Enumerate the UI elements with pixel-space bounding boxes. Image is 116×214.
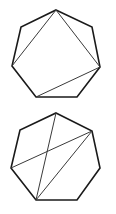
heptagon-bottom	[11, 113, 100, 200]
heptagon-top-outline	[12, 10, 100, 97]
heptagon-top	[12, 10, 100, 97]
heptagon-top-diagonal-3	[36, 67, 100, 97]
heptagon-diagram	[0, 0, 116, 214]
heptagon-bottom-outline	[11, 113, 100, 200]
heptagon-bottom-diagonal-2	[11, 131, 92, 168]
heptagon-top-diagonal-2	[56, 10, 100, 67]
